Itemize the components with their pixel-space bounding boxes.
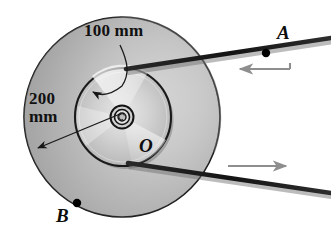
point-a-label: A	[277, 23, 290, 42]
outer-radius-label-line2: mm	[29, 108, 58, 126]
outer-radius-label-line1: 200	[29, 90, 58, 108]
point-o-label: O	[139, 136, 153, 155]
motion-arrows	[228, 63, 290, 166]
outer-radius-label: 200 mm	[29, 90, 58, 126]
inner-radius-label: 100 mm	[84, 22, 143, 40]
point-b-marker	[73, 199, 81, 207]
spool-figure: 100 mm 200 mm A O B	[0, 0, 331, 237]
point-b-label: B	[56, 206, 69, 225]
point-a-marker	[262, 49, 270, 57]
